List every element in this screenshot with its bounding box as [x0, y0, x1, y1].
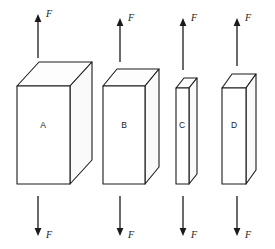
block-c-front-face — [176, 88, 189, 184]
force-label-a-down: F — [45, 229, 53, 240]
force-label-b-up: F — [127, 12, 135, 23]
block-b-front-face — [103, 86, 145, 184]
block-b — [103, 69, 159, 184]
force-arrow-d-down — [234, 196, 241, 236]
figure-canvas: ABCDFFFFFFFF — [0, 0, 275, 249]
arrow-head-icon — [234, 228, 241, 236]
block-label-b: B — [121, 120, 127, 130]
force-label-a-up: F — [45, 8, 53, 19]
arrow-head-icon — [234, 18, 241, 26]
block-d-front-face — [222, 88, 246, 184]
block-a — [17, 62, 92, 184]
force-label-b-down: F — [127, 229, 135, 240]
force-arrow-b-down — [117, 196, 124, 236]
force-arrow-c-up — [180, 18, 187, 70]
physics-figure-tensile-blocks: ABCDFFFFFFFF — [0, 0, 275, 249]
block-label-a: A — [40, 120, 46, 130]
force-label-c-down: F — [190, 229, 198, 240]
force-label-d-up: F — [244, 12, 252, 23]
force-label-d-down: F — [244, 229, 252, 240]
arrow-head-icon — [35, 14, 42, 22]
block-label-d: D — [231, 120, 237, 130]
force-arrow-b-up — [117, 18, 124, 62]
block-b-side-face — [145, 69, 159, 184]
force-arrow-a-down — [35, 196, 42, 236]
force-label-c-up: F — [190, 12, 198, 23]
blocks-layer — [17, 62, 256, 184]
block-c-side-face — [189, 78, 197, 184]
force-arrow-d-up — [234, 18, 241, 66]
arrow-head-icon — [35, 228, 42, 236]
force-arrow-a-up — [35, 14, 42, 58]
block-c — [176, 78, 197, 184]
arrow-head-icon — [117, 18, 124, 26]
force-arrow-c-down — [180, 196, 187, 236]
block-d — [222, 74, 256, 184]
block-a-front-face — [17, 86, 70, 184]
arrow-head-icon — [180, 228, 187, 236]
arrow-head-icon — [117, 228, 124, 236]
arrow-head-icon — [180, 18, 187, 26]
block-label-c: C — [179, 120, 185, 130]
block-d-side-face — [246, 74, 256, 184]
